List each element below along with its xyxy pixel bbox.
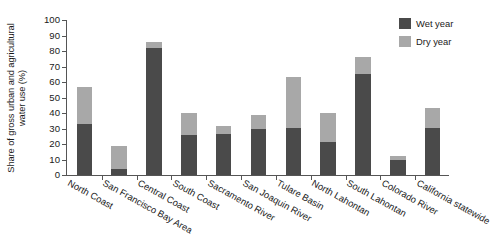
cropped-title-strip [0, 0, 467, 9]
bar-group [181, 113, 197, 175]
bar-segment-dry-year [77, 87, 93, 124]
bar-segment-dry-year [425, 108, 441, 127]
bar-segment-dry-year [181, 113, 197, 135]
bar-group [251, 115, 267, 175]
bar-segment-wet-year [181, 135, 197, 175]
y-tick-label: 20 [49, 139, 60, 149]
legend-item-dry-year: Dry year [399, 36, 467, 47]
x-axis-labels: North CoastSan Francisco Bay AreaCentral… [66, 178, 467, 247]
y-axis-title-container: Share of gross urban and agricultural wa… [0, 18, 34, 178]
y-axis-title: Share of gross urban and agricultural wa… [0, 18, 34, 178]
bar-segment-dry-year [216, 126, 232, 134]
legend-item-wet-year: Wet year [399, 18, 467, 29]
legend-swatch-wet-year [399, 18, 411, 29]
bar-group [216, 126, 232, 175]
y-tick-label: 70 [49, 62, 60, 72]
bar-segment-wet-year [425, 128, 441, 175]
bar-segment-wet-year [286, 128, 302, 175]
y-tick-label: 50 [49, 93, 60, 103]
bar-group [286, 77, 302, 175]
bar-segment-dry-year [320, 113, 336, 142]
legend-label-dry-year: Dry year [416, 37, 451, 46]
bar-segment-wet-year [320, 142, 336, 175]
y-tick-label: 0 [55, 170, 60, 180]
legend-swatch-dry-year [399, 36, 411, 47]
chart-legend: Wet year Dry year [399, 18, 467, 54]
bar-group [111, 146, 127, 175]
bar-segment-wet-year [355, 74, 371, 175]
bar-series-container [66, 20, 449, 176]
bar-segment-wet-year [77, 124, 93, 175]
bar-segment-wet-year [390, 160, 406, 176]
y-tick-label: 40 [49, 108, 60, 118]
y-tick-label: 90 [49, 31, 60, 41]
bar-group [390, 156, 406, 175]
y-tick-label: 80 [49, 46, 60, 56]
bar-group [425, 108, 441, 175]
bar-group [77, 87, 93, 175]
bar-group [320, 113, 336, 175]
bar-segment-dry-year [286, 77, 302, 127]
bar-segment-dry-year [111, 146, 127, 169]
y-tick-label: 60 [49, 77, 60, 87]
bar-segment-dry-year [355, 57, 371, 74]
y-tick-label: 10 [49, 155, 60, 165]
y-tick-label: 30 [49, 124, 60, 134]
y-tick-label: 100 [44, 15, 60, 25]
plot-area: 0102030405060708090100 [66, 20, 449, 176]
bar-group [355, 57, 371, 175]
bar-segment-dry-year [251, 115, 267, 128]
bar-segment-wet-year [251, 129, 267, 176]
bar-group [146, 42, 162, 175]
bar-segment-wet-year [111, 169, 127, 175]
bar-segment-wet-year [216, 134, 232, 175]
legend-label-wet-year: Wet year [416, 19, 453, 28]
bar-segment-wet-year [146, 48, 162, 175]
